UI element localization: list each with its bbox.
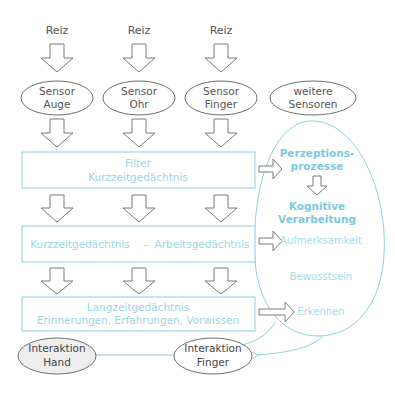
sensor-other-label-2: Sensoren (289, 98, 338, 110)
recognition-label: Erkennen (297, 306, 344, 317)
long-term-memory-title: Langzeitgedächtnis (87, 301, 189, 313)
attention-label: Aufmerksamkeit (280, 235, 362, 246)
filter-title: Filter (125, 157, 152, 169)
interaction-hand-label-1: Interaktion (28, 342, 85, 354)
sensor-other-label-1: weitere (293, 85, 332, 97)
down-arrow-icon (41, 44, 73, 72)
down-arrow-icon (123, 119, 155, 147)
sensor-eye-label-1: Sensor (39, 85, 76, 97)
filter-subtitle: Kurzzeitgedächtnis (88, 171, 188, 183)
perception-process-label-2: prozesse (291, 160, 344, 172)
interaction-hand-label-2: Hand (43, 356, 71, 368)
sensor-finger-label-2: Finger (205, 98, 238, 110)
stimulus-label-2: Reiz (128, 24, 151, 37)
down-arrow-icon (307, 176, 327, 195)
sensor-eye-label-2: Auge (44, 98, 71, 110)
down-arrow-icon (205, 119, 237, 147)
feedback-arrow (258, 336, 323, 355)
down-arrow-icon (41, 195, 73, 222)
perception-diagram: Reiz Reiz Reiz Sensor Auge Sensor Ohr Se… (0, 0, 395, 393)
down-arrow-icon (41, 119, 73, 147)
stimulus-label-1: Reiz (46, 24, 69, 37)
working-memory-label: Arbeitsgedächtnis (155, 238, 250, 250)
interaction-finger-label-2: Finger (197, 356, 230, 368)
cognitive-processing-label-2: Verarbeitung (278, 213, 356, 225)
sensor-ear-label-2: Ohr (129, 98, 149, 110)
interaction-finger-label-1: Interaktion (184, 342, 241, 354)
down-arrow-icon (205, 268, 237, 294)
down-arrow-icon (205, 195, 237, 222)
down-arrow-icon (205, 44, 237, 72)
right-arrow-icon (259, 159, 282, 179)
perception-process-label-1: Perzeptions- (280, 147, 355, 159)
sensor-ear-label-1: Sensor (121, 85, 158, 97)
short-term-memory-label: Kurzzeitgedächtnis (30, 238, 130, 250)
down-arrow-icon (123, 44, 155, 72)
cognitive-processing-label-1: Kognitive (289, 200, 345, 212)
sensor-finger-label-1: Sensor (203, 85, 240, 97)
consciousness-label: Bewusstsein (290, 271, 352, 282)
stimulus-label-3: Reiz (210, 24, 233, 37)
down-arrow-icon (123, 268, 155, 294)
right-arrow-icon (259, 302, 294, 322)
long-term-memory-subtitle: Erinnerungen, Erfahrungen, Vorwissen (37, 314, 239, 326)
right-arrow-icon (259, 231, 282, 251)
down-arrow-icon (41, 268, 73, 294)
down-arrow-icon (123, 195, 155, 222)
dash-separator: – (143, 238, 148, 250)
